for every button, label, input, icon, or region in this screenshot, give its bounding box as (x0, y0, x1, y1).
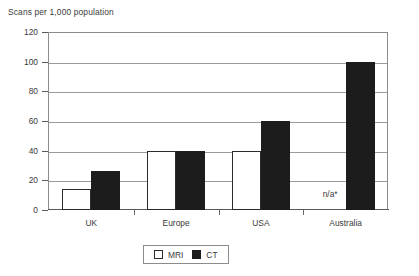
y-tick-80 (42, 91, 48, 92)
bar-uk-mri (62, 189, 91, 210)
bar-europe-mri (147, 151, 176, 210)
legend-item-ct: CT (192, 250, 217, 260)
na-annotation: n/a* (316, 189, 345, 199)
legend-item-mri: MRI (154, 250, 183, 260)
y-axis-label-20: 20 (29, 175, 38, 185)
chart-title: Scans per 1,000 population (8, 7, 114, 17)
bar-usa-mri (232, 151, 261, 210)
bars-layer: n/a* (49, 32, 388, 210)
x-tick-3 (303, 210, 304, 215)
y-tick-60 (42, 121, 48, 122)
y-tick-0 (42, 210, 48, 211)
y-tick-20 (42, 180, 48, 181)
x-axis-label-usa: USA (252, 218, 269, 228)
bar-usa-ct (261, 121, 290, 210)
y-axis-label-60: 60 (29, 116, 38, 126)
y-tick-100 (42, 62, 48, 63)
y-axis-label-80: 80 (29, 86, 38, 96)
chart-legend: MRICT (143, 245, 229, 264)
legend-label-ct: CT (206, 250, 217, 260)
bar-australia-ct (346, 62, 375, 210)
x-axis-label-uk: UK (86, 218, 98, 228)
x-axis-label-australia: Australia (329, 218, 362, 228)
bar-group (49, 32, 134, 210)
bar-chart-figure: Scans per 1,000 population 0204060801001… (0, 0, 419, 276)
bar-uk-ct (91, 171, 120, 210)
bar-group: n/a* (303, 32, 388, 210)
y-axis-label-120: 120 (24, 27, 38, 37)
bar-group (219, 32, 304, 210)
legend-label-mri: MRI (168, 250, 183, 260)
y-axis-label-0: 0 (33, 205, 38, 215)
y-tick-120 (42, 32, 48, 33)
y-tick-40 (42, 151, 48, 152)
x-tick-2 (219, 210, 220, 215)
x-axis-label-europe: Europe (163, 218, 190, 228)
y-axis-label-100: 100 (24, 57, 38, 67)
bar-group (134, 32, 219, 210)
y-axis-label-40: 40 (29, 146, 38, 156)
x-tick-1 (134, 210, 135, 215)
bar-europe-ct (176, 151, 205, 210)
white-square-icon (154, 250, 163, 259)
black-square-icon (192, 250, 201, 259)
